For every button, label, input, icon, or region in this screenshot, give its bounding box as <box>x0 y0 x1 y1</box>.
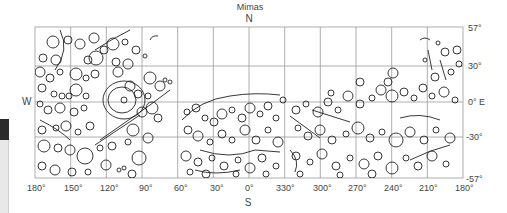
map-grid <box>35 27 463 178</box>
crater-features <box>35 30 462 178</box>
mimas-map <box>0 0 507 213</box>
